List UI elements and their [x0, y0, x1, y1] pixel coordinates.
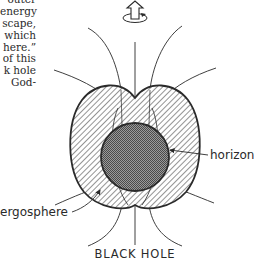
- horizon-sphere: [101, 123, 169, 191]
- rotation-axis-arrow-icon: [123, 1, 147, 23]
- ergosphere-label: ergosphere: [0, 205, 68, 219]
- horizon-label: horizon: [210, 148, 254, 162]
- black-hole-diagram: horizon ergosphere BLACK HOLE: [0, 0, 263, 260]
- diagram-title: BLACK HOLE: [95, 247, 176, 260]
